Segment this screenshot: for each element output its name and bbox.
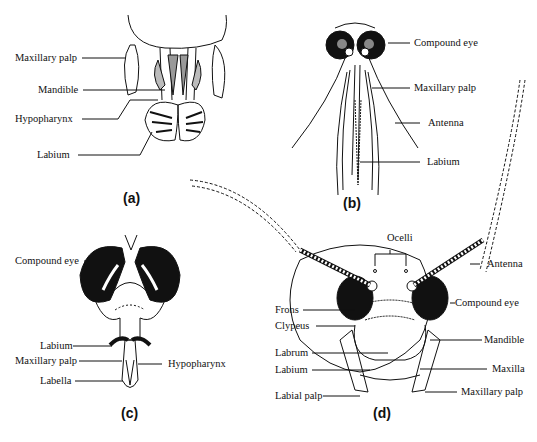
label-a-labium: Labium (37, 149, 70, 161)
label-d-maxilla: Maxilla (492, 363, 525, 375)
label-c-hypopharynx: Hypopharynx (168, 358, 226, 370)
label-c-labella: Labella (40, 375, 71, 387)
panel-a-drawing (78, 15, 227, 155)
label-d-compound-eye: Compound eye (455, 297, 519, 309)
mouthparts-illustration (0, 0, 537, 442)
panel-d-drawing (290, 240, 487, 396)
label-c-maxillary-palp: Maxillary palp (15, 355, 77, 367)
label-c-compound-eye: Compound eye (15, 255, 79, 267)
label-d-frons: Frons (275, 304, 299, 316)
label-d-clypeus: Clypeus (275, 320, 309, 332)
label-c-labium: Labium (40, 340, 73, 352)
label-d-ocelli: Ocelli (387, 232, 413, 244)
label-d-antenna: Antenna (487, 258, 523, 270)
label-a-hypopharynx: Hypopharynx (15, 113, 73, 125)
label-d-maxillary-palp: Maxillary palp (461, 386, 523, 398)
caption-a: (a) (123, 190, 140, 206)
label-b-antenna: Antenna (428, 117, 464, 129)
label-b-maxillary-palp: Maxillary palp (414, 82, 476, 94)
caption-c: (c) (121, 405, 138, 421)
label-d-labrum: Labrum (275, 347, 308, 359)
label-b-labium: Labium (427, 156, 460, 168)
label-d-labial-palp: Labial palp (275, 390, 323, 402)
label-b-compound-eye: Compound eye (414, 37, 478, 49)
panel-b-drawing (292, 23, 420, 195)
label-a-maxillary-palp: Maxillary palp (15, 52, 77, 64)
label-d-labium: Labium (275, 364, 308, 376)
caption-b: (b) (343, 195, 361, 211)
label-d-mandible: Mandible (484, 334, 524, 346)
label-a-mandible: Mandible (38, 84, 78, 96)
caption-d: (d) (373, 405, 391, 421)
panel-c-drawing (73, 235, 180, 388)
